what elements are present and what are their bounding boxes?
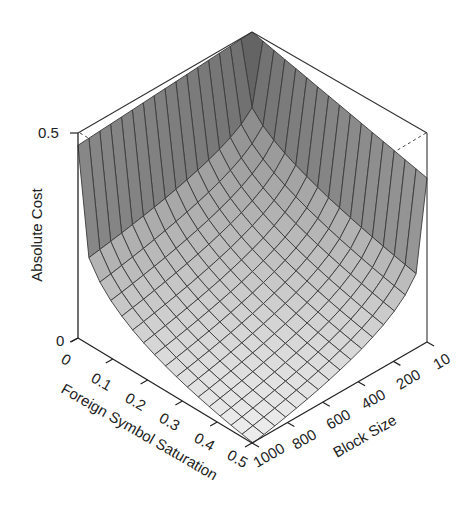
y-tick	[323, 402, 330, 406]
x-tick	[71, 338, 78, 342]
z-tick-label-0: 0	[56, 332, 64, 349]
surface-chart: 0.5 0 Absolute Cost 0 0.1 0.2 0.3 0.4 0.…	[0, 0, 474, 508]
y-tick	[358, 382, 365, 386]
x-tick	[175, 401, 182, 405]
y-tick-label-10: 10	[430, 350, 453, 373]
z-tick-label-0.5: 0.5	[38, 124, 59, 141]
y-tick-label-1000: 1000	[250, 439, 287, 470]
y-tick	[393, 361, 400, 365]
z-axis-title: Absolute Cost	[28, 187, 45, 281]
y-tick	[427, 342, 434, 346]
x-tick-label-0: 0	[59, 350, 75, 369]
z-axis: 0.5 0 Absolute Cost	[28, 124, 78, 349]
y-tick	[252, 443, 259, 447]
x-tick-label-0.1: 0.1	[89, 369, 116, 394]
x-tick-label-0.5: 0.5	[225, 446, 252, 471]
cost-surface	[78, 32, 427, 443]
y-tick-label-400: 400	[358, 385, 388, 412]
y-tick	[287, 423, 294, 427]
x-tick-label-0.2: 0.2	[123, 389, 150, 414]
x-tick	[245, 443, 252, 447]
x-tick	[210, 422, 217, 426]
x-tick-label-0.4: 0.4	[192, 429, 219, 454]
x-tick	[106, 359, 113, 363]
x-tick	[141, 380, 148, 384]
y-tick-label-200: 200	[393, 365, 423, 392]
y-tick-label-600: 600	[323, 405, 353, 432]
y-tick-label-800: 800	[289, 425, 319, 452]
x-tick-label-0.3: 0.3	[157, 409, 184, 434]
